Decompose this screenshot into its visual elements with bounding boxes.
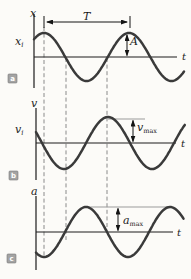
panel-acceleration: a t amax c: [7, 185, 184, 270]
amplitude-marker: A: [127, 35, 138, 56]
amax-label: amax: [123, 214, 144, 228]
velocity-time-label: t: [181, 138, 186, 149]
acceleration-time-label: t: [177, 227, 182, 238]
shm-graphs-figure: x t xi T A a v t vi vma: [0, 0, 191, 279]
panel-velocity: v t vi vmax b: [9, 97, 186, 180]
amplitude-label: A: [129, 35, 138, 48]
velocity-axis-label: v: [31, 97, 38, 110]
panel-b-badge-label: b: [11, 172, 16, 180]
vmax-label: vmax: [137, 121, 157, 135]
initial-position-label: xi: [15, 35, 23, 49]
panel-b-badge: b: [9, 171, 18, 180]
panel-a-badge: a: [8, 74, 17, 83]
panel-c-badge: c: [7, 254, 16, 263]
vmax-marker: vmax: [133, 121, 157, 142]
panel-a-badge-label: a: [10, 75, 15, 83]
panel-c-badge-label: c: [9, 255, 13, 263]
period-marker: T: [44, 10, 130, 28]
phase-guide-lines: [44, 27, 107, 256]
position-axis-label: x: [30, 7, 37, 20]
position-time-label: t: [182, 51, 187, 62]
acceleration-axis-label: a: [31, 185, 38, 198]
panel-position: x t xi T A a: [8, 7, 187, 88]
initial-velocity-label: vi: [15, 123, 23, 137]
shm-graphs-svg: x t xi T A a v t vi vma: [0, 0, 191, 279]
amax-marker: amax: [118, 209, 144, 231]
period-label: T: [83, 10, 92, 23]
